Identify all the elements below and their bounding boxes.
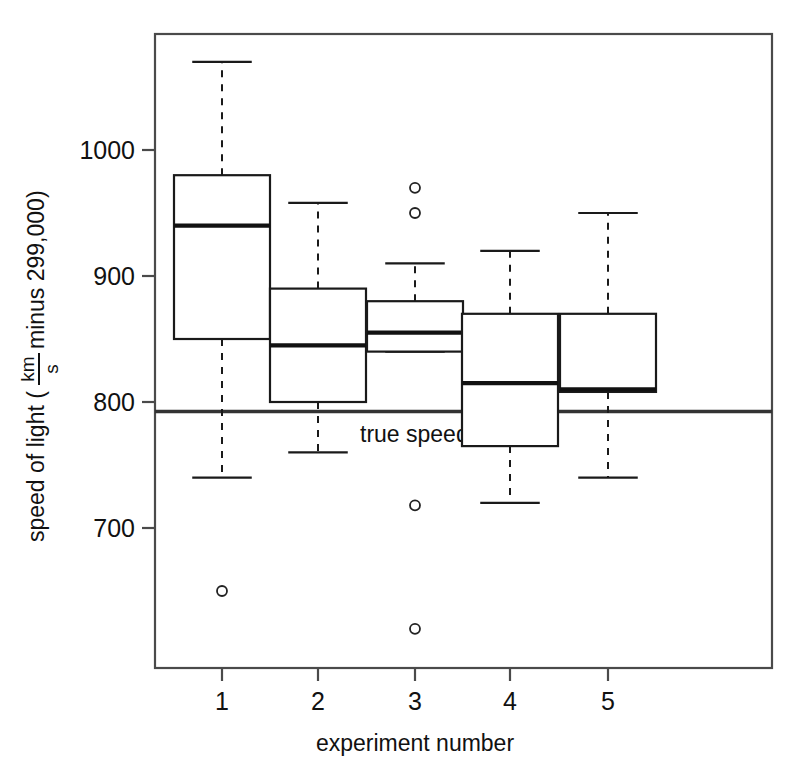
- y-axis-fraction-numerator: km: [17, 356, 38, 381]
- x-tick-label: 1: [215, 687, 229, 715]
- y-tick-label: 1000: [79, 136, 135, 164]
- y-axis-title-suffix: minus 299,000): [23, 190, 49, 349]
- y-tick-label: 800: [93, 388, 135, 416]
- y-tick-label: 700: [93, 514, 135, 542]
- x-tick-label: 2: [311, 687, 325, 715]
- y-tick-label: 900: [93, 262, 135, 290]
- true-speed-label: true speed: [360, 421, 469, 447]
- boxplot-figure: 1000900800700 12345 true speed experimen…: [0, 0, 810, 776]
- x-axis-title: experiment number: [316, 730, 514, 756]
- x-tick-label: 4: [503, 687, 517, 715]
- y-axis-fraction-denominator: s: [41, 364, 62, 374]
- x-tick-label: 3: [408, 687, 422, 715]
- x-tick-label: 5: [601, 687, 615, 715]
- y-axis-title-prefix: speed of light (: [23, 391, 49, 542]
- boxplot-svg: 1000900800700 12345 true speed experimen…: [0, 0, 810, 776]
